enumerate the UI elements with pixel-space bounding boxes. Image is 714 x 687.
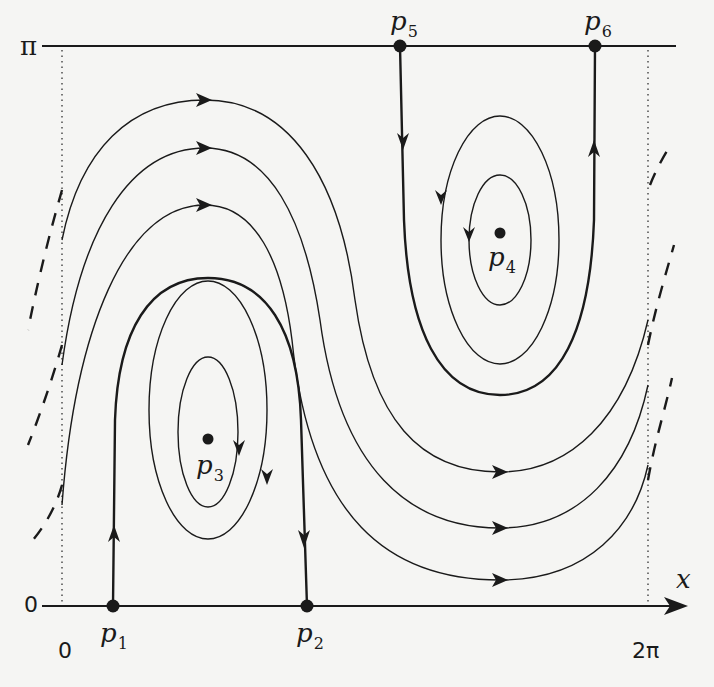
arrow-down-orbit4-outer-icon: [435, 190, 447, 205]
label-p2-sub: 2: [314, 634, 324, 653]
point-p3: [203, 434, 214, 445]
orbit-p3-outer: [149, 281, 267, 539]
label-p4: p4: [488, 244, 516, 270]
label-p2-letter: p: [296, 618, 313, 648]
x-axis-name: x: [676, 566, 691, 592]
dashed-continuation-right-2: [648, 245, 674, 345]
orbit-p4-outer: [441, 116, 559, 364]
label-p4-sub: 4: [506, 258, 516, 277]
point-p4: [495, 228, 506, 239]
label-p5-sub: 5: [408, 22, 418, 41]
dashed-continuation-right-1: [650, 143, 672, 185]
label-p6-sub: 6: [602, 22, 612, 41]
x-label-zero: 0: [58, 640, 72, 662]
orbit-p3-inner: [178, 357, 238, 507]
orbit-p4-inner: [469, 175, 531, 305]
point-p2: [301, 600, 314, 613]
separatrix-right: [400, 46, 595, 395]
dashed-continuation-left-1: [28, 190, 62, 330]
flow-orbit-2: [62, 148, 648, 528]
label-p6: p6: [584, 8, 612, 34]
label-p1-sub: 1: [118, 634, 128, 653]
label-p2: p2: [296, 620, 324, 646]
flow-orbit-1: [62, 100, 648, 472]
label-p5: p5: [390, 8, 418, 34]
label-p1-letter: p: [100, 618, 117, 648]
y-label-pi: π: [20, 33, 37, 59]
label-p6-letter: p: [584, 6, 601, 36]
label-p1: p1: [100, 620, 128, 646]
label-p3-letter: p: [196, 450, 213, 480]
dashed-continuation-right-3: [648, 378, 672, 480]
dashed-continuation-left-2: [28, 345, 62, 445]
phase-portrait-figure: π 0 0 2π x p1 p2 p3 p4 p5 p6: [0, 0, 714, 687]
phase-portrait-canvas: [0, 0, 714, 687]
arrow-down-orbit-inner-icon: [233, 440, 245, 456]
point-p5: [394, 40, 407, 53]
arrow-down-orbit-outer-icon: [261, 469, 273, 485]
label-p3-sub: 3: [214, 466, 224, 485]
label-p5-letter: p: [390, 6, 407, 36]
label-p3: p3: [196, 452, 224, 478]
y-label-zero: 0: [24, 594, 38, 616]
point-p6: [589, 40, 602, 53]
label-p4-letter: p: [488, 242, 505, 272]
point-p1: [107, 600, 120, 613]
x-label-2pi: 2π: [632, 640, 659, 662]
dashed-continuation-left-3: [28, 485, 62, 546]
